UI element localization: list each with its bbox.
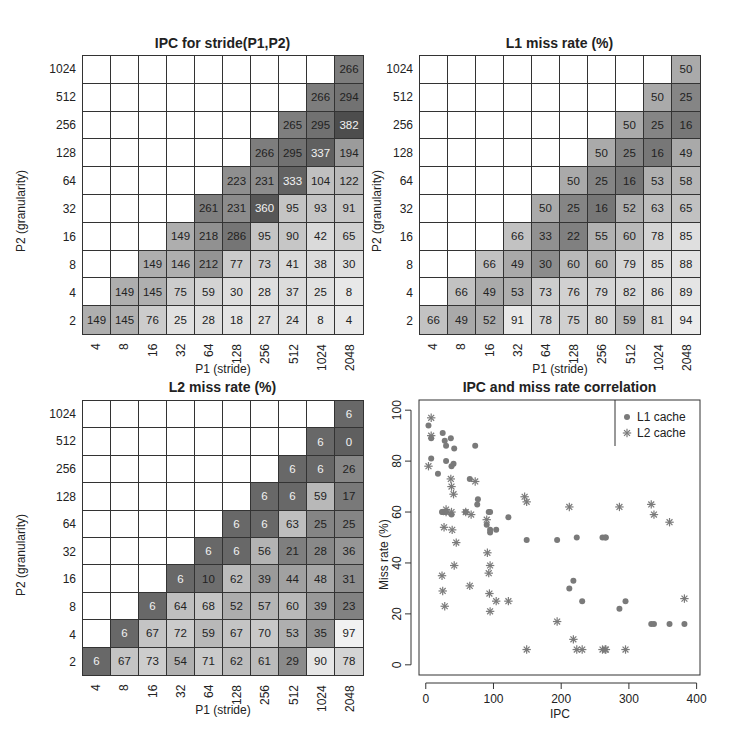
x-tick-label: 400 xyxy=(687,692,707,706)
scatter-plot: 0100200300400020406080100L1 cacheL2 cach… xyxy=(0,0,737,756)
y-tick-label: 40 xyxy=(390,556,404,570)
l2-point xyxy=(650,510,658,518)
legend-l2-marker xyxy=(623,429,631,437)
y-tick-label: 60 xyxy=(390,505,404,519)
y-tick-label: 20 xyxy=(390,607,404,621)
l2-point xyxy=(448,526,456,534)
l2-point xyxy=(452,538,460,546)
l1-point xyxy=(435,471,441,477)
l2-point xyxy=(602,645,610,653)
l2-point xyxy=(486,561,494,569)
l2-point xyxy=(438,587,446,595)
l2-point xyxy=(615,503,623,511)
scatter-x-axis-label: IPC xyxy=(419,707,701,721)
l1-point xyxy=(487,509,493,515)
l1-point xyxy=(472,443,478,449)
legend-l2-label: L2 cache xyxy=(637,426,686,440)
l1-point xyxy=(524,537,530,543)
l2-point xyxy=(680,594,688,602)
l1-point xyxy=(474,501,480,507)
y-tick-label: 80 xyxy=(390,454,404,468)
plot-frame xyxy=(419,400,700,675)
l2-point xyxy=(427,431,435,439)
l1-point xyxy=(681,621,687,627)
l2-point xyxy=(486,607,494,615)
l2-point xyxy=(424,462,432,470)
l1-point xyxy=(493,527,499,533)
l2-point xyxy=(438,571,446,579)
l1-point xyxy=(651,621,657,627)
legend-l1-marker xyxy=(624,414,630,420)
l1-point xyxy=(443,458,449,464)
l2-point xyxy=(578,645,586,653)
l2-point xyxy=(565,503,573,511)
l2-point xyxy=(485,569,493,577)
l1-point xyxy=(443,443,449,449)
l2-point xyxy=(504,597,512,605)
l2-point xyxy=(427,414,435,422)
l2-point xyxy=(483,515,491,523)
l1-point xyxy=(451,445,457,451)
l1-point xyxy=(442,438,448,444)
legend-l1-label: L1 cache xyxy=(637,410,686,424)
l2-point xyxy=(522,645,530,653)
l1-point xyxy=(570,578,576,584)
l1-point xyxy=(623,598,629,604)
l2-point xyxy=(467,510,475,518)
y-tick-label: 100 xyxy=(390,400,404,420)
x-tick-label: 100 xyxy=(483,692,503,706)
l1-point xyxy=(579,598,585,604)
l2-point xyxy=(492,597,500,605)
l1-point xyxy=(451,461,457,467)
l1-point xyxy=(667,621,673,627)
l2-point xyxy=(441,602,449,610)
l2-point xyxy=(447,475,455,483)
l2-point xyxy=(665,518,673,526)
l2-point xyxy=(447,508,455,516)
l1-point xyxy=(475,496,481,502)
x-tick-label: 300 xyxy=(619,692,639,706)
l2-point xyxy=(569,635,577,643)
y-tick-label: 0 xyxy=(390,661,404,668)
l2-point xyxy=(553,617,561,625)
l1-point xyxy=(566,585,572,591)
l1-point xyxy=(440,430,446,436)
l2-point xyxy=(466,582,474,590)
l2-point xyxy=(522,498,530,506)
l1-point xyxy=(448,435,454,441)
l1-point xyxy=(425,422,431,428)
l2-point xyxy=(621,645,629,653)
l1-point xyxy=(505,514,511,520)
x-tick-label: 200 xyxy=(551,692,571,706)
l1-point xyxy=(487,527,493,533)
scatter-y-axis-label: Miss rate (%) xyxy=(377,519,391,590)
l1-point xyxy=(428,456,434,462)
l2-point xyxy=(647,500,655,508)
l2-point xyxy=(485,589,493,597)
l1-point xyxy=(616,606,622,612)
l2-point xyxy=(483,549,491,557)
l2-point xyxy=(449,490,457,498)
l2-point xyxy=(447,482,455,490)
l2-point xyxy=(450,561,458,569)
l1-point xyxy=(574,535,580,541)
l2-point xyxy=(471,477,479,485)
x-tick-label: 0 xyxy=(422,692,429,706)
l1-point xyxy=(602,535,608,541)
l1-point xyxy=(554,537,560,543)
l2-point xyxy=(440,523,448,531)
